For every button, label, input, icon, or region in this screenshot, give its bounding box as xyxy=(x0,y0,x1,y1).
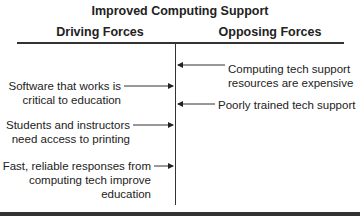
force-arrows xyxy=(0,0,360,216)
bottom-border xyxy=(0,212,360,216)
